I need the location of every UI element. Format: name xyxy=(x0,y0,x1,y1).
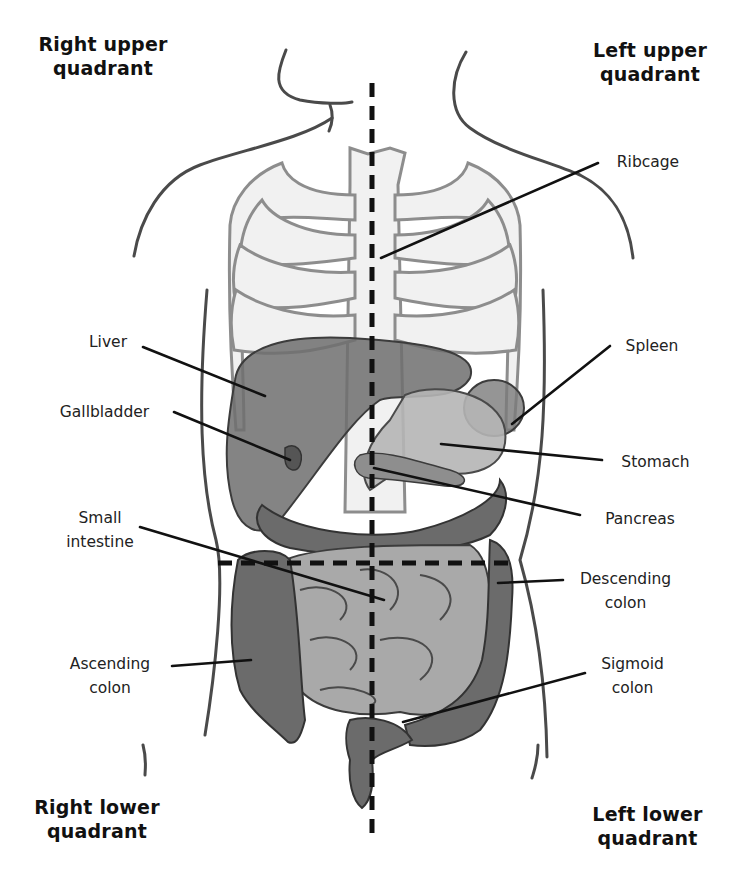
quadrant-line: quadrant xyxy=(580,62,720,86)
label-line: Stomach xyxy=(608,450,703,474)
quadrant-line: quadrant xyxy=(28,56,178,80)
quadrant-label-right-upper: Right upper quadrant xyxy=(28,32,178,80)
label-line: intestine xyxy=(55,530,145,554)
label-line: colon xyxy=(585,676,680,700)
label-line: Liver xyxy=(78,330,138,354)
label-pancreas: Pancreas xyxy=(590,507,690,531)
label-ribcage: Ribcage xyxy=(603,150,693,174)
label-descending-colon: Descending colon xyxy=(568,567,683,615)
quadrant-label-left-lower: Left lower quadrant xyxy=(575,802,720,850)
label-liver: Liver xyxy=(78,330,138,354)
label-line: colon xyxy=(568,591,683,615)
quadrant-line: quadrant xyxy=(22,819,172,843)
quadrant-line: Right upper xyxy=(28,32,178,56)
label-line: Pancreas xyxy=(590,507,690,531)
label-line: Ribcage xyxy=(603,150,693,174)
label-line: colon xyxy=(55,676,165,700)
label-line: Spleen xyxy=(612,334,692,358)
label-spleen: Spleen xyxy=(612,334,692,358)
quadrant-line: Left upper xyxy=(580,38,720,62)
label-stomach: Stomach xyxy=(608,450,703,474)
label-line: Sigmoid xyxy=(585,652,680,676)
abdomen-diagram xyxy=(0,0,737,883)
label-line: Small xyxy=(55,506,145,530)
quadrant-label-left-upper: Left upper quadrant xyxy=(580,38,720,86)
label-ascending-colon: Ascending colon xyxy=(55,652,165,700)
sigmoid-colon xyxy=(346,718,412,808)
quadrant-label-right-lower: Right lower quadrant xyxy=(22,795,172,843)
label-small-intestine: Small intestine xyxy=(55,506,145,554)
label-line: Gallbladder xyxy=(42,400,167,424)
quadrant-line: quadrant xyxy=(575,826,720,850)
label-line: Descending xyxy=(568,567,683,591)
label-sigmoid-colon: Sigmoid colon xyxy=(585,652,680,700)
small-intestine xyxy=(280,545,490,715)
quadrant-line: Right lower xyxy=(22,795,172,819)
quadrant-line: Left lower xyxy=(575,802,720,826)
label-line: Ascending xyxy=(55,652,165,676)
label-gallbladder: Gallbladder xyxy=(42,400,167,424)
